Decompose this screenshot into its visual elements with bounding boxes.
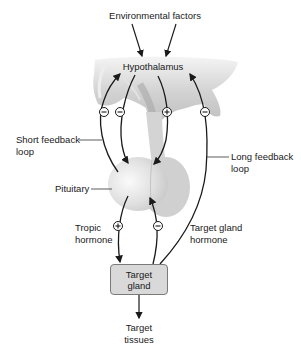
- env-arrow-left: [132, 24, 142, 56]
- sign-hypo-to-pit-plus: [163, 108, 172, 117]
- pituitary-shape: [108, 157, 190, 217]
- tropic-hormone-label: Tropic hormone: [75, 222, 113, 246]
- sign-short-loop-pit: [116, 108, 125, 117]
- target-gland-hormone-label: Target gland hormone: [190, 222, 242, 246]
- sign-long-loop: [201, 108, 210, 117]
- environmental-factors-label: Environmental factors: [90, 10, 220, 22]
- target-tissues-label: Target tissues: [109, 322, 169, 346]
- sign-short-loop-hypo: [100, 108, 109, 117]
- target-gland-box: Target gland: [110, 264, 168, 295]
- pituitary-label: Pituitary: [55, 183, 89, 195]
- feedback-diagram-graphic: [0, 0, 301, 351]
- env-arrow-right: [166, 24, 176, 56]
- hypothalamus-label: Hypothalamus: [113, 61, 193, 73]
- long-feedback-loop-label: Long feedback loop: [231, 151, 293, 175]
- sign-target-to-pit-minus: [154, 222, 163, 231]
- pituitary-stalk: [146, 112, 166, 165]
- sign-tropic-plus: [114, 222, 123, 231]
- short-feedback-loop-label: Short feedback loop: [16, 134, 80, 158]
